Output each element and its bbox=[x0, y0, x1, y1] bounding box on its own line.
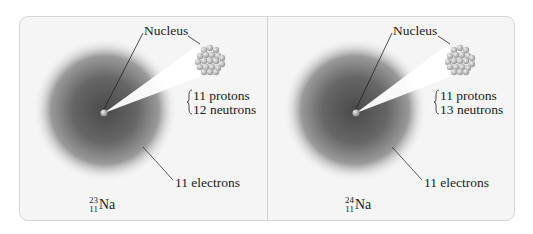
nucleus-dot bbox=[353, 110, 360, 117]
isotope-numbers: 2311 bbox=[89, 196, 98, 214]
brace-icon bbox=[187, 90, 192, 114]
neutrons-count: 12 neutrons bbox=[193, 103, 256, 117]
element-symbol: Na bbox=[355, 197, 371, 213]
nucleus-leader bbox=[438, 36, 450, 44]
nucleus-leader bbox=[188, 36, 200, 44]
nucleus-label: Nucleus bbox=[393, 24, 437, 38]
brace-icon bbox=[434, 90, 439, 114]
nucleus-dot bbox=[101, 110, 108, 117]
protons-count: 11 protons bbox=[440, 89, 497, 103]
isotope-symbol: 2411Na bbox=[345, 196, 371, 214]
isotope-numbers: 2411 bbox=[345, 196, 354, 214]
element-symbol: Na bbox=[99, 197, 115, 213]
protons-count: 11 protons bbox=[193, 89, 250, 103]
nucleus-label: Nucleus bbox=[144, 24, 188, 38]
neutrons-count: 13 neutrons bbox=[440, 103, 503, 117]
electrons-count: 11 electrons bbox=[175, 176, 240, 190]
isotope-symbol: 2311Na bbox=[89, 196, 115, 214]
atom-diagrams bbox=[0, 0, 533, 234]
electrons-count: 11 electrons bbox=[424, 176, 489, 190]
